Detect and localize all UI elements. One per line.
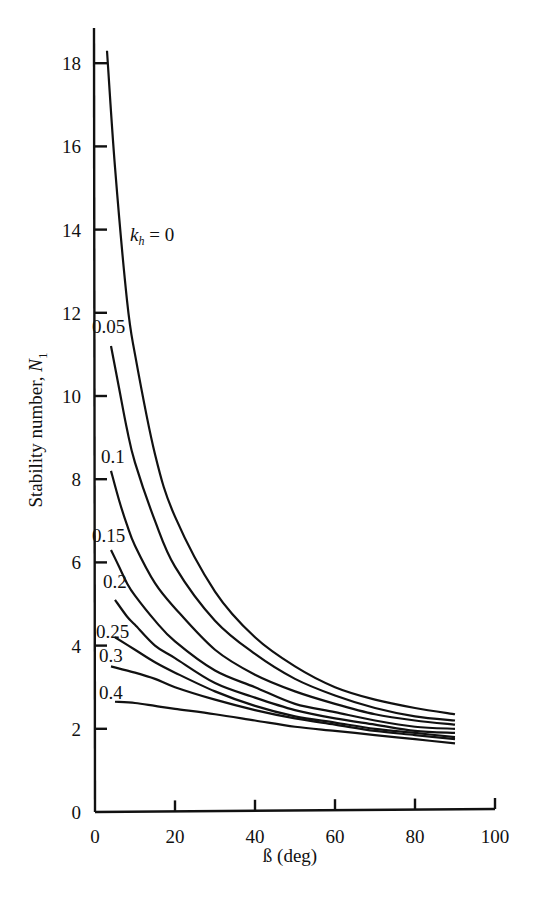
label-0-25: 0.25 — [96, 621, 129, 642]
x-tick-label: 40 — [246, 826, 265, 847]
y-tick-label: 16 — [62, 136, 81, 157]
curves — [107, 51, 455, 744]
x-tick-label: 20 — [166, 826, 185, 847]
label-0-2: 0.2 — [103, 571, 127, 592]
y-axis-title: Stability number, N1 — [25, 352, 50, 507]
y-tick-label: 10 — [62, 386, 81, 407]
label-0-15: 0.15 — [92, 525, 125, 546]
label-kh-0: kh = 0 — [130, 224, 174, 248]
label-0-05: 0.05 — [92, 316, 125, 337]
curve-labels: kh = 00.050.10.150.20.250.30.4 — [92, 224, 174, 703]
label-0-1: 0.1 — [101, 446, 125, 467]
stability-chart: 024681012141618020406080100 kh = 00.050.… — [0, 0, 534, 898]
curve-0-15 — [111, 550, 455, 729]
x-tick-label: 60 — [326, 826, 345, 847]
y-tick-label: 12 — [62, 303, 81, 324]
curve-0-05 — [111, 346, 455, 720]
x-axis-line — [95, 809, 495, 812]
y-tick-label: 0 — [72, 802, 82, 823]
y-tick-label: 18 — [62, 53, 81, 74]
label-0-4: 0.4 — [99, 682, 123, 703]
curve-k-h---0 — [107, 51, 455, 715]
label-0-3: 0.3 — [99, 645, 123, 666]
x-axis-title: ß (deg) — [263, 845, 317, 867]
curve-0-1 — [111, 471, 455, 725]
y-tick-label: 4 — [72, 636, 82, 657]
y-tick-label: 6 — [72, 552, 82, 573]
y-tick-label: 2 — [72, 719, 82, 740]
y-axis-line — [94, 28, 95, 812]
y-tick-label: 8 — [72, 469, 82, 490]
x-tick-label: 100 — [481, 826, 510, 847]
x-tick-label: 80 — [406, 826, 425, 847]
y-tick-label: 14 — [62, 220, 82, 241]
x-tick-label: 0 — [90, 826, 100, 847]
